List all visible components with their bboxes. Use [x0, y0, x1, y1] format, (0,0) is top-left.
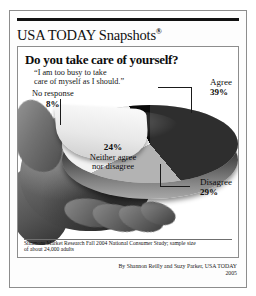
- byline-credit: By Shannon Reilly and Suzy Parker, USA T…: [119, 263, 238, 269]
- data-label-agree-value: 39%: [210, 87, 232, 97]
- data-label-agree-name: Agree: [210, 77, 232, 87]
- byline-year: 2005: [17, 270, 237, 277]
- outer-frame: USA TODAY Snapshots® Do you take care of…: [9, 10, 247, 288]
- data-label-neither: 24% Neither agree nor disagree: [70, 143, 156, 172]
- snapshot-page: USA TODAY Snapshots® Do you take care of…: [0, 0, 256, 296]
- byline: By Shannon Reilly and Suzy Parker, USA T…: [17, 263, 239, 277]
- chart-subtitle: “I am too busy to take care of myself as…: [34, 68, 124, 87]
- masthead-rule: [17, 18, 239, 21]
- data-label-neither-line-2: nor disagree: [92, 161, 134, 171]
- data-label-no-response: No response 8%: [32, 89, 74, 109]
- data-label-agree: Agree 39%: [210, 77, 232, 97]
- chart-panel: Do you take care of yourself? “I am too …: [17, 46, 239, 258]
- page-title: Do you take care of yourself?: [25, 52, 178, 68]
- masthead-brand-text: USA TODAY Snapshots: [17, 27, 156, 43]
- subtitle-line-2: care of myself as I should.”: [34, 77, 124, 86]
- leader-line-agree-vertical: [191, 87, 192, 113]
- data-label-no-response-value: 8%: [32, 99, 74, 109]
- registered-mark-icon: ®: [156, 27, 162, 36]
- masthead-brand: USA TODAY Snapshots®: [17, 24, 239, 46]
- leader-line-disagree-vertical: [160, 164, 161, 187]
- data-label-disagree-name: Disagree: [200, 177, 232, 187]
- leader-line-agree: [158, 87, 192, 88]
- data-label-no-response-name: No response: [32, 89, 74, 98]
- data-label-neither-line-1: Neither agree: [90, 152, 137, 162]
- data-label-disagree: Disagree 29%: [200, 177, 232, 197]
- source-line-1: Simmons Market Research Fall 2004 Nation…: [24, 240, 232, 247]
- data-label-disagree-value: 29%: [200, 187, 232, 197]
- source-citation: Simmons Market Research Fall 2004 Nation…: [24, 240, 232, 253]
- source-line-2: of about 24,000 adults: [24, 246, 232, 253]
- subtitle-line-1: “I am too busy to take: [34, 68, 124, 77]
- leader-line-disagree: [160, 186, 190, 187]
